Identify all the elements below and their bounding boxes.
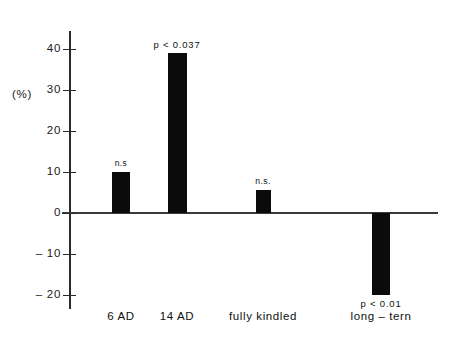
y-axis-tick-label-text: 0 xyxy=(15,207,61,219)
y-axis-tick-label-text: 30 xyxy=(15,84,61,96)
y-axis-tick xyxy=(63,213,76,214)
y-axis-tick-label-text: 40 xyxy=(15,43,61,55)
y-axis-tick-label: 40 xyxy=(8,43,61,55)
y-axis-tick xyxy=(63,295,76,296)
y-axis-tick-label: – 20 xyxy=(8,289,61,301)
bar-significance-label: n.s. xyxy=(203,177,323,186)
category-label: long – tern xyxy=(306,311,450,323)
y-axis-tick-label: – 10 xyxy=(8,248,61,260)
y-axis-tick-label: 0 xyxy=(8,207,61,219)
bar xyxy=(168,53,187,213)
y-axis-tick xyxy=(63,254,76,255)
bar xyxy=(256,190,271,213)
bar xyxy=(112,172,130,213)
y-axis-tick-label: 10 xyxy=(8,166,61,178)
y-axis-tick-label: 30 xyxy=(8,84,61,96)
y-axis-tick xyxy=(63,172,76,173)
bar-significance-label: n.s xyxy=(61,159,181,168)
y-axis-tick xyxy=(63,131,76,132)
y-axis-tick-label-text: – 20 xyxy=(15,289,61,301)
bar-chart: (%) 403020100– 10– 20 n.sp < 0.037n.s.p … xyxy=(0,0,450,339)
bar xyxy=(372,213,390,295)
y-axis-tick xyxy=(63,49,76,50)
bar-significance-label: p < 0.037 xyxy=(117,40,237,50)
bar-significance-label: p < 0.01 xyxy=(321,299,441,309)
y-axis-tick-label: 20 xyxy=(8,125,61,137)
y-axis-tick-label-text: 10 xyxy=(15,166,61,178)
y-axis-tick xyxy=(63,90,76,91)
y-axis-tick-label-text: – 10 xyxy=(15,248,61,260)
y-axis-tick-label-text: 20 xyxy=(15,125,61,137)
y-axis-line xyxy=(69,31,71,309)
